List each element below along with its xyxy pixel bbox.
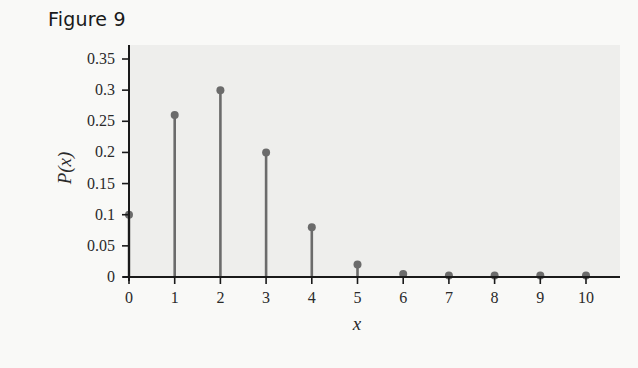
y-tick-label: 0.1 (95, 206, 115, 223)
y-tick-label: 0.2 (95, 143, 115, 160)
y-ticks-group: 00.050.10.150.20.250.30.35 (87, 50, 129, 285)
y-tick-label: 0.35 (87, 50, 115, 67)
y-tick-label: 0.05 (87, 237, 115, 254)
stem-marker (262, 148, 270, 156)
x-axis-label: x (352, 313, 362, 334)
stem-marker (216, 86, 224, 94)
x-tick-label: 6 (399, 289, 407, 306)
y-tick-label: 0 (107, 268, 115, 285)
x-ticks-group: 012345678910 (125, 277, 594, 306)
y-tick-label: 0.15 (87, 175, 115, 192)
x-tick-label: 4 (308, 289, 316, 306)
x-tick-label: 10 (578, 289, 594, 306)
stem-marker (171, 111, 179, 119)
y-axis-label: P(x) (54, 152, 76, 186)
x-tick-label: 2 (216, 289, 224, 306)
x-tick-label: 5 (354, 289, 362, 306)
plot-area (129, 45, 620, 277)
x-tick-label: 7 (445, 289, 453, 306)
x-tick-label: 3 (262, 289, 270, 306)
y-tick-label: 0.25 (87, 112, 115, 129)
stem-marker (354, 261, 362, 269)
x-tick-label: 0 (125, 289, 133, 306)
y-tick-label: 0.3 (95, 81, 115, 98)
x-tick-label: 1 (171, 289, 179, 306)
stem-chart: 00.050.10.150.20.250.30.35 012345678910 … (0, 0, 638, 368)
x-tick-label: 8 (491, 289, 499, 306)
stem-marker (308, 223, 316, 231)
x-tick-label: 9 (536, 289, 544, 306)
